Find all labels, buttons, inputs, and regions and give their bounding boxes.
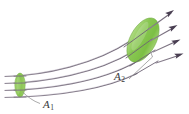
arrowhead-3: [171, 37, 181, 45]
area-2-label-subscript: 2: [121, 75, 125, 84]
area-1-ellipse-sheen: [17, 76, 21, 94]
area-1-leader-group: [23, 92, 41, 104]
field-line-1-back: [5, 41, 131, 77]
area-1-label-subscript: 1: [50, 103, 54, 112]
field-line-1-highlight: [5, 40, 131, 76]
arrowhead-4: [174, 51, 184, 59]
area-1-label: A1: [42, 98, 54, 112]
area-1-label-symbol: A: [42, 98, 50, 110]
area-2-label-symbol: A: [113, 70, 121, 82]
field-line-3-front: [153, 41, 177, 52]
area-1-leader-line: [23, 92, 41, 104]
flux-diagram-figure: A1 A2: [0, 0, 189, 114]
flux-diagram-canvas: A1 A2: [0, 0, 189, 114]
area-2-surface: [120, 13, 165, 68]
area-2-ellipse: [120, 13, 165, 68]
